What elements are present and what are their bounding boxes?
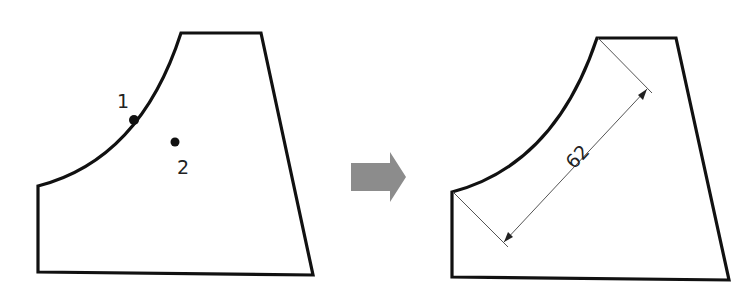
left-shape-outline bbox=[38, 33, 313, 275]
point-2-marker bbox=[171, 138, 180, 147]
left-figure: 1 2 bbox=[38, 33, 313, 275]
dimension-arrowhead-top bbox=[638, 89, 647, 100]
point-2-label: 2 bbox=[177, 156, 189, 178]
extension-line-bottom bbox=[453, 192, 508, 247]
dimension-value-label: 62 bbox=[561, 140, 594, 173]
right-arrow-icon bbox=[351, 152, 406, 202]
point-1-label: 1 bbox=[117, 90, 129, 112]
extension-line-top bbox=[598, 38, 652, 93]
point-1-marker bbox=[129, 115, 139, 125]
diagram-canvas: 1 2 62 bbox=[0, 0, 755, 300]
right-shape-outline bbox=[452, 38, 729, 280]
right-figure: 62 bbox=[452, 38, 729, 280]
